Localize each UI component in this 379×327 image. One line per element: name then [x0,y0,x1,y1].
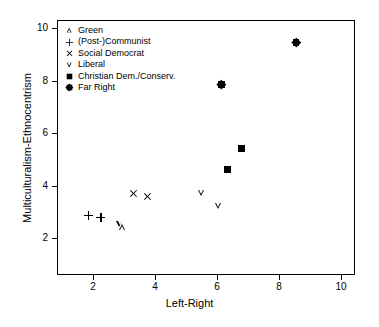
triangle-up-icon [66,28,72,33]
legend-item: Liberal [64,59,175,70]
x-axis-title: Left-Right [0,297,379,309]
triangle-down-icon [215,203,223,210]
square-icon [224,166,231,173]
legend-label: (Post-)Communist [78,36,151,47]
y-tick-mark [52,133,57,134]
plus-icon [84,211,93,220]
diamond-icon [66,84,73,91]
data-point [96,213,105,222]
legend-item: Far Right [64,82,175,93]
x-tick-label: 6 [205,281,229,293]
chart-legend: Green(Post-)CommunistSocial DemocratLibe… [64,25,175,93]
scatter-plot-figure: 246810 246810 Green(Post-)CommunistSocia… [0,0,379,327]
legend-marker [64,59,75,70]
data-point [143,193,151,201]
cross-icon [143,193,151,201]
data-point [217,80,226,89]
cross-icon [66,50,72,56]
triangle-down-icon [198,190,206,197]
x-tick-mark [217,275,218,280]
data-point [84,211,93,220]
data-point [238,145,245,152]
x-tick-mark [155,275,156,280]
data-point [129,189,137,197]
legend-label: Social Democrat [78,48,144,59]
legend-label: Far Right [78,82,115,93]
x-tick-label: 8 [267,281,291,293]
x-tick-mark [93,275,94,280]
diamond-icon [292,38,301,47]
legend-label: Green [78,25,103,36]
legend-item: (Post-)Communist [64,36,175,47]
legend-label: Liberal [78,59,105,70]
square-icon [238,145,245,152]
y-tick-mark [52,186,57,187]
plus-icon [96,213,105,222]
data-point [215,203,223,210]
legend-item: Green [64,25,175,36]
x-tick-label: 2 [81,281,105,293]
cross-icon [129,189,137,197]
triangle-down-icon [116,221,124,228]
legend-marker [64,48,75,59]
legend-marker [64,71,75,82]
x-tick-label: 10 [329,281,353,293]
legend-marker [64,25,75,36]
legend-item: Christian Dem./Conserv. [64,71,175,82]
data-point [224,166,231,173]
data-point [198,190,206,197]
data-point [292,38,301,47]
y-tick-mark [52,81,57,82]
y-tick-mark [52,28,57,29]
y-axis-title: Multiculturalism-Ethnocentrism [21,8,33,288]
legend-item: Social Democrat [64,48,175,59]
square-icon [67,73,73,79]
triangle-down-icon [66,62,72,67]
legend-marker [64,82,75,93]
legend-marker [64,37,75,48]
diamond-icon [217,80,226,89]
plus-icon [66,38,73,45]
legend-label: Christian Dem./Conserv. [78,71,175,82]
y-tick-mark [52,238,57,239]
x-tick-mark [279,275,280,280]
x-tick-mark [341,275,342,280]
data-point [116,221,124,228]
x-tick-label: 4 [143,281,167,293]
